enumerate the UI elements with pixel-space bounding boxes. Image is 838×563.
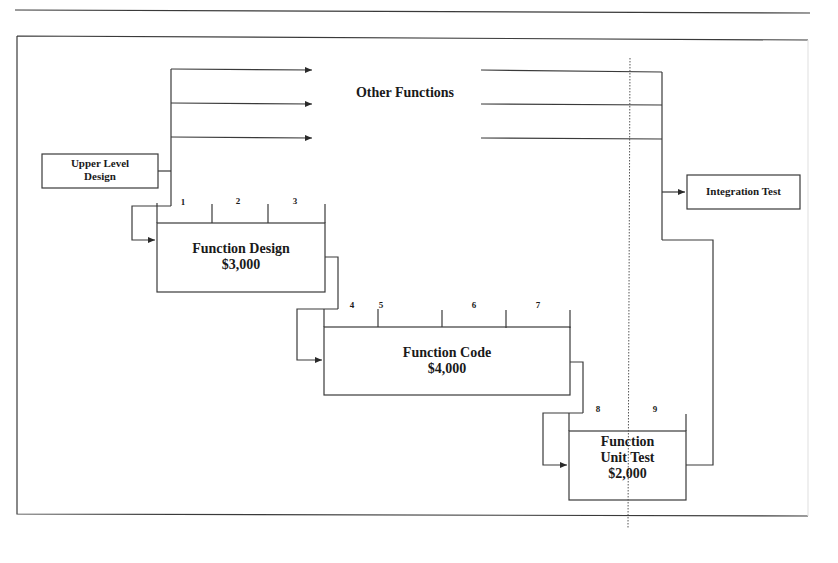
arrow-to-other-functions-2	[171, 103, 312, 104]
connector-code-to-unit-test	[570, 362, 583, 413]
arrow-to-other-functions-3	[171, 137, 312, 138]
function-design-name: Function Design	[157, 241, 325, 257]
arrow-to-other-functions-1	[171, 69, 312, 70]
connector-other-functions-out-2	[481, 104, 662, 105]
function-unit-test-label: Function Unit Test $2,000	[569, 434, 686, 482]
connector-other-functions-out-1	[481, 70, 662, 72]
page-top-rule	[15, 10, 810, 13]
period-label-8: 8	[588, 404, 608, 414]
other-functions-label: Other Functions	[330, 85, 480, 101]
period-label-3: 3	[285, 196, 305, 206]
connector-design-to-code	[325, 257, 338, 309]
period-label-1: 1	[173, 197, 193, 207]
upper-level-design-label: Upper Level Design	[42, 157, 158, 182]
function-code-cost: $4,000	[324, 361, 570, 377]
connector-other-functions-out-3	[481, 138, 662, 139]
diagram-frame	[17, 36, 808, 516]
upper-level-design-line2: Design	[42, 170, 158, 183]
period-label-2: 2	[228, 196, 248, 206]
integration-test-label: Integration Test	[687, 185, 800, 198]
function-code-label: Function Code $4,000	[324, 345, 570, 377]
period-label-7: 7	[528, 300, 548, 310]
function-code-name: Function Code	[324, 345, 570, 361]
function-design-label: Function Design $3,000	[157, 241, 325, 273]
upper-level-design-line1: Upper Level	[42, 157, 158, 170]
function-unit-test-line2: Unit Test	[569, 450, 686, 466]
function-unit-test-cost: $2,000	[569, 466, 686, 482]
period-label-4: 4	[342, 300, 362, 310]
function-unit-test-line1: Function	[569, 434, 686, 450]
period-label-5: 5	[371, 300, 391, 310]
function-design-cost: $3,000	[157, 257, 325, 273]
period-label-9: 9	[645, 404, 665, 414]
period-label-6: 6	[464, 300, 484, 310]
